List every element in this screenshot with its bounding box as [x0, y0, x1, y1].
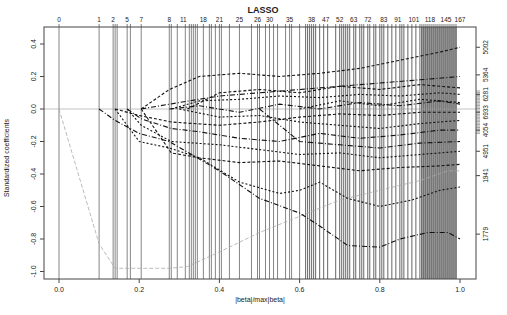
top-axis-label: 118 [425, 16, 436, 23]
top-axis-label: 145 [441, 16, 452, 23]
top-axis-label: 21 [216, 16, 224, 23]
top-axis-label: 72 [364, 16, 372, 23]
top-axis-label: 5 [125, 16, 129, 23]
step-vertical-lines [59, 27, 456, 279]
right-axis-label: 1779 [482, 227, 489, 242]
y-tick-label: -1.0 [30, 265, 37, 277]
chart-title: LASSO [247, 5, 278, 15]
coefficient-path-1941 [99, 109, 460, 247]
top-axis-label: 8 [167, 16, 171, 23]
top-axis-label: 63 [350, 16, 358, 23]
x-axis-label: |beta|/max|beta| [235, 296, 285, 304]
right-axis-label: 4054 [482, 123, 489, 138]
top-axis-label: 35 [286, 16, 294, 23]
top-axis-label: 26 [254, 16, 262, 23]
top-axis-label: 2 [111, 16, 115, 23]
x-axis: 0.00.20.40.60.81.0 [54, 279, 465, 293]
top-axis-label: 52 [336, 16, 344, 23]
x-tick-label: 1.0 [455, 286, 465, 293]
top-axis-label: 30 [266, 16, 274, 23]
y-tick-label: -0.8 [30, 233, 37, 245]
y-tick-label: -0.6 [30, 200, 37, 212]
top-axis-label: 7 [139, 16, 143, 23]
top-axis-label: 25 [236, 16, 244, 23]
top-axis-label: 38 [308, 16, 316, 23]
top-axis-label: 91 [394, 16, 402, 23]
top-axis-label: 101 [408, 16, 419, 23]
y-tick-label: 0.2 [30, 72, 37, 82]
y-axis: 0.40.20.0-0.2-0.4-0.6-0.8-1.0 [30, 39, 44, 278]
top-axis-label: 1 [97, 16, 101, 23]
right-axis-label: 5364 [482, 67, 489, 82]
top-axis-step-counts: 0125781118212526303538475263728391101118… [57, 16, 466, 27]
y-tick-label: -0.4 [30, 168, 37, 180]
top-axis-label: 18 [200, 16, 208, 23]
x-tick-label: 0.2 [134, 286, 144, 293]
top-axis-label: 47 [322, 16, 330, 23]
coefficient-path-s11 [169, 101, 460, 112]
right-axis-variable-ids: 50025364628169334054495119411779 [476, 40, 489, 242]
top-axis-label: 0 [57, 16, 61, 23]
lasso-chart: 0.00.20.40.60.81.0 0.40.20.0-0.2-0.4-0.6… [0, 0, 507, 315]
chart-canvas: 0.00.20.40.60.81.0 0.40.20.0-0.2-0.4-0.6… [0, 0, 507, 315]
x-tick-label: 0.4 [215, 286, 225, 293]
right-axis-label: 5002 [482, 40, 489, 55]
y-axis-label: Standardized coefficients [3, 118, 10, 197]
right-axis-label: 1941 [482, 168, 489, 183]
right-axis-label: 6933 [482, 105, 489, 120]
right-axis-label: 4951 [482, 144, 489, 159]
y-tick-label: 0.0 [30, 104, 37, 114]
top-axis-label: 83 [380, 16, 388, 23]
x-tick-label: 0.6 [295, 286, 305, 293]
top-axis-label: 167 [455, 16, 466, 23]
x-tick-label: 0.8 [375, 286, 385, 293]
y-tick-label: 0.4 [30, 39, 37, 49]
x-tick-label: 0.0 [54, 286, 64, 293]
y-tick-label: -0.2 [30, 135, 37, 147]
plot-frame [44, 27, 476, 279]
right-axis-label: 6281 [482, 87, 489, 102]
top-axis-label: 11 [180, 16, 187, 23]
